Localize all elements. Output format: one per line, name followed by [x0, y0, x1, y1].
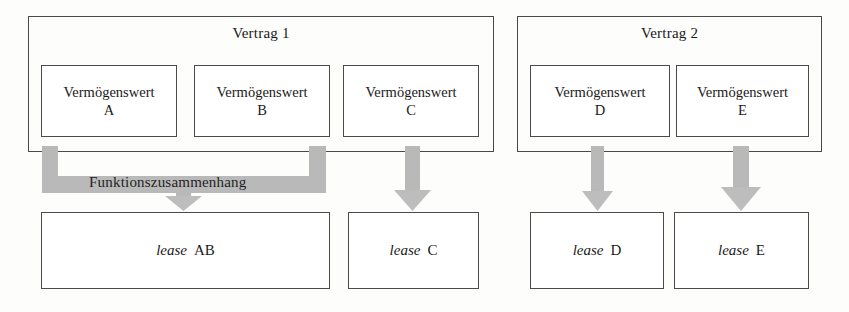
asset-box-c: Vermögenswert C	[343, 65, 479, 137]
asset-box-a: Vermögenswert A	[41, 65, 177, 137]
lease-e-word: lease	[718, 242, 749, 259]
lease-box-e: lease E	[674, 212, 809, 289]
lease-c-word: lease	[390, 242, 421, 259]
asset-b-label-line2: B	[257, 101, 267, 119]
lease-c-code: C	[427, 242, 437, 259]
funktionszusammenhang-label: Funktionszusammenhang	[89, 174, 247, 191]
lease-ab-code: AB	[194, 242, 215, 259]
asset-a-label-line2: A	[104, 101, 114, 119]
lease-box-ab: lease AB	[41, 212, 330, 289]
arrow-e-icon	[721, 146, 761, 211]
arrow-c-icon	[394, 146, 431, 211]
lease-box-d: lease D	[530, 212, 664, 289]
asset-box-e: Vermögenswert E	[676, 65, 809, 137]
asset-e-label-line2: E	[738, 101, 747, 119]
asset-c-label-line2: C	[406, 101, 416, 119]
asset-box-b: Vermögenswert B	[194, 65, 330, 137]
asset-d-label-line1: Vermögenswert	[554, 83, 645, 101]
lease-d-code: D	[610, 242, 621, 259]
lease-e-code: E	[756, 242, 765, 259]
lease-box-c: lease C	[348, 212, 479, 289]
asset-b-label-line1: Vermögenswert	[216, 83, 307, 101]
arrow-d-icon	[582, 146, 613, 211]
contract-title-vertrag-2: Vertrag 2	[518, 25, 821, 42]
asset-c-label-line1: Vermögenswert	[365, 83, 456, 101]
arrow-ab-icon	[165, 188, 202, 211]
contract-title-vertrag-1: Vertrag 1	[29, 25, 493, 42]
diagram-canvas: Vertrag 1 Vermögenswert A Vermögenswert …	[0, 0, 849, 312]
asset-box-d: Vermögenswert D	[530, 65, 670, 137]
lease-d-word: lease	[573, 242, 604, 259]
lease-ab-word: lease	[156, 242, 187, 259]
asset-d-label-line2: D	[595, 101, 605, 119]
asset-a-label-line1: Vermögenswert	[63, 83, 154, 101]
asset-e-label-line1: Vermögenswert	[697, 83, 788, 101]
